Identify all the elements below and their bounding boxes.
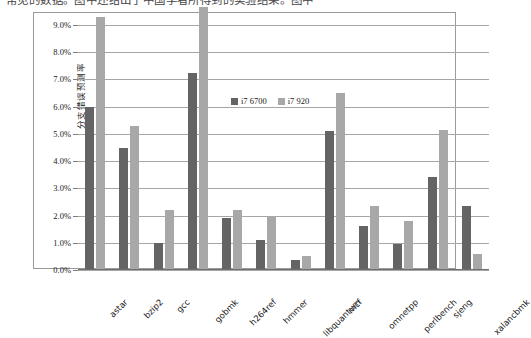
bar: [165, 210, 174, 270]
bar: [130, 126, 139, 270]
bar: [473, 254, 482, 270]
bar-group: [78, 17, 112, 270]
bar: [267, 216, 276, 270]
cut-off-body-text-line: 常见的数据。图中还给出了中国学者所得到的实验结果。图中: [6, 0, 314, 7]
x-axis-tick-label: gcc: [174, 297, 192, 315]
bar-group: [421, 130, 455, 270]
x-axis-baseline: [78, 269, 489, 270]
legend-swatch-icon: [231, 98, 238, 105]
legend-label-series-1: i7 920: [288, 96, 310, 106]
bar: [96, 17, 105, 270]
y-axis-tick-label: 3.0%: [53, 183, 71, 193]
bar: [188, 73, 197, 270]
x-axis-tick-label: astar: [107, 297, 129, 319]
bar: [439, 130, 448, 270]
y-axis-tick-label: 6.0%: [53, 102, 71, 112]
bar: [222, 218, 231, 270]
gridline: [78, 270, 489, 271]
legend-item-series-0: i7 6700: [231, 96, 267, 106]
bar: [404, 221, 413, 270]
bar: [119, 148, 128, 271]
gridline: [78, 52, 489, 53]
bar: [393, 244, 402, 270]
y-axis-tick-label: 0.0%: [53, 265, 71, 275]
bar-group: [112, 126, 146, 270]
x-axis-tick-label: omnetpp: [386, 297, 420, 331]
bar-group: [215, 210, 249, 270]
bar: [85, 107, 94, 270]
y-axis-tick-label: 9.0%: [53, 20, 71, 30]
bar: [233, 210, 242, 270]
cut-off-body-text: 常见的数据。图中还给出了中国学者所得到的实验结果。图中: [0, 0, 460, 9]
bar-group: [284, 256, 318, 270]
x-axis-tick-label: xalancbmk: [491, 297, 531, 337]
chart-plot-frame: 分支错误预测率 0.0%1.0%2.0%3.0%4.0%5.0%6.0%7.0%…: [33, 12, 456, 269]
bar: [199, 7, 208, 270]
chart-legend: i7 6700 i7 920: [231, 96, 309, 106]
legend-item-series-1: i7 920: [278, 96, 310, 106]
bar-group: [455, 206, 489, 270]
legend-label-series-0: i7 6700: [241, 96, 267, 106]
bar: [336, 93, 345, 270]
legend-swatch-icon: [278, 98, 285, 105]
bar-group: [352, 206, 386, 270]
y-axis-tick-label: 4.0%: [53, 156, 71, 166]
bar-group: [181, 7, 215, 270]
gridline: [78, 107, 489, 108]
x-axis-tick-label: gobmk: [212, 297, 240, 325]
bar: [154, 243, 163, 270]
bar: [428, 177, 437, 270]
bar-group: [318, 93, 352, 270]
y-axis-tick-label: 1.0%: [53, 238, 71, 248]
x-axis-tick-label: bzip2: [142, 297, 165, 320]
x-axis-tick-label: h264ref: [248, 297, 279, 328]
bar-group: [249, 216, 283, 270]
y-axis-tick-label: 5.0%: [53, 129, 71, 139]
bar: [462, 206, 471, 270]
bar-group: [147, 210, 181, 270]
bar: [370, 206, 379, 270]
gridline: [78, 79, 489, 80]
gridline: [78, 25, 489, 26]
tick-mark: [73, 270, 78, 271]
y-axis-tick-label: 8.0%: [53, 47, 71, 57]
bar: [325, 131, 334, 270]
plot-area: 0.0%1.0%2.0%3.0%4.0%5.0%6.0%7.0%8.0%9.0%…: [78, 25, 489, 270]
y-axis-tick-label: 7.0%: [53, 74, 71, 84]
bar: [302, 256, 311, 270]
bar: [256, 240, 265, 270]
bar: [359, 226, 368, 270]
x-axis-tick-label: hmmer: [281, 297, 310, 326]
y-axis-tick-label: 2.0%: [53, 211, 71, 221]
bar-group: [386, 221, 420, 270]
